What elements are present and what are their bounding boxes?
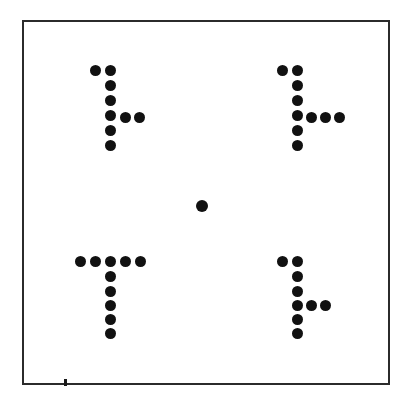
stimulus-dot xyxy=(292,286,303,297)
central-fixation-dot xyxy=(196,200,208,212)
bottom-border-registration-tick xyxy=(64,379,67,386)
stimulus-dot xyxy=(292,314,303,325)
stimulus-dot xyxy=(292,256,303,267)
stimulus-dot xyxy=(292,328,303,339)
stimulus-dot xyxy=(306,300,317,311)
stimulus-dot xyxy=(320,300,331,311)
stimulus-dot xyxy=(292,300,303,311)
bottom-right-rotated-t xyxy=(0,0,417,410)
stimulus-figure xyxy=(0,0,417,410)
stimulus-dot xyxy=(277,256,288,267)
stimulus-dot xyxy=(292,271,303,282)
